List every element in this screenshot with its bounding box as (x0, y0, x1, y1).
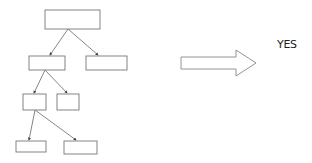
edge-root-l2a (50, 29, 68, 55)
node-l2a (29, 56, 65, 70)
result-label: YES (277, 38, 297, 51)
node-l4b (64, 141, 97, 154)
right-arrow-icon (181, 50, 256, 76)
edge-l2a-l3b (45, 70, 67, 93)
node-l2b (86, 56, 127, 70)
node-root (45, 10, 100, 29)
edge-root-l2b (68, 29, 98, 55)
edge-l3a-l4a (29, 110, 35, 140)
node-l4a (16, 141, 46, 152)
node-l3b (57, 94, 79, 110)
tree-diagram (0, 0, 312, 163)
node-l3a (23, 94, 46, 110)
edge-l3a-l4b (35, 110, 76, 140)
edge-l2a-l3a (34, 70, 45, 93)
